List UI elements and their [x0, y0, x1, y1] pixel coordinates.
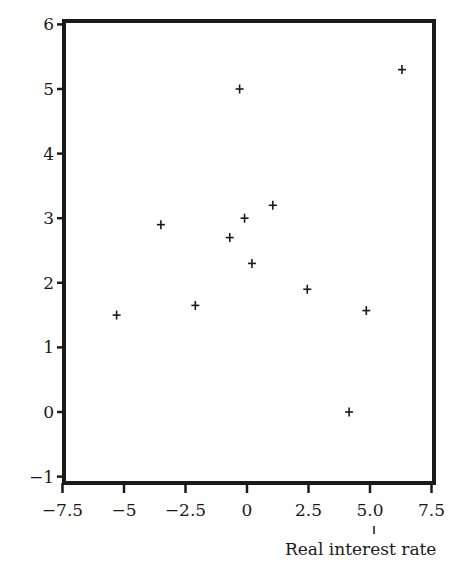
x-tick-label: 0	[242, 500, 253, 520]
y-tick-label: 2	[43, 273, 54, 293]
y-tick-label: 0	[43, 402, 54, 422]
x-tick-label: −7.5	[42, 500, 83, 520]
plus-marker-icon	[236, 85, 244, 94]
x-tick-label: 7.5	[418, 500, 445, 520]
plus-marker-icon	[362, 306, 370, 315]
plus-marker-icon	[113, 311, 121, 320]
plus-marker-icon	[226, 233, 234, 242]
plus-marker-icon	[248, 259, 256, 268]
x-axis-title-group: Real interest rate	[285, 526, 436, 559]
data-points	[113, 65, 406, 416]
plus-marker-icon	[157, 220, 165, 229]
x-tick-label: −5	[111, 500, 136, 520]
x-axis-title: Real interest rate	[285, 539, 436, 559]
plot-frame	[64, 21, 434, 483]
plus-marker-icon	[303, 285, 311, 294]
y-tick-label: 6	[43, 14, 54, 34]
plus-marker-icon	[398, 65, 406, 74]
y-tick-label: 5	[43, 79, 54, 99]
plus-marker-icon	[269, 201, 277, 210]
x-tick-label: 2.5	[295, 500, 322, 520]
plot-border	[64, 21, 434, 483]
y-tick-label: −1	[29, 467, 54, 487]
plus-marker-icon	[345, 408, 353, 417]
x-axis: −7.5−5−2.502.55.07.5	[42, 483, 445, 520]
plus-marker-icon	[241, 214, 249, 223]
x-tick-label: 5.0	[356, 500, 383, 520]
y-tick-label: 3	[43, 208, 54, 228]
y-axis: 6543210−1	[29, 14, 64, 486]
plus-marker-icon	[191, 301, 199, 310]
x-tick-label: −2.5	[165, 500, 206, 520]
y-tick-label: 4	[43, 144, 54, 164]
y-tick-label: 1	[43, 337, 54, 357]
scatter-chart: 6543210−1 −7.5−5−2.502.55.07.5 Real inte…	[0, 0, 456, 568]
